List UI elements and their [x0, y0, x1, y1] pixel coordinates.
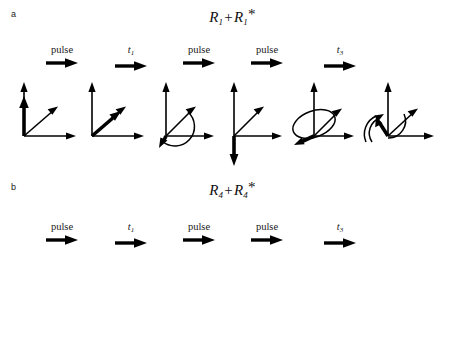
panel-a-frame-1 [12, 74, 86, 170]
panel-a-step-4-label: pulse [239, 44, 295, 56]
panel-b-step-5-label: t3 [312, 221, 368, 236]
panel-a-steps-row: pulse t1 pulse [0, 44, 465, 78]
nmr-vector-evolution-figure: a R1+R1* pulse t1 pulse [0, 0, 465, 346]
panel-a-frame-6 [358, 74, 432, 170]
z-axis-arrowhead [230, 82, 237, 92]
panel-a-step-4: pulse [239, 44, 295, 69]
panel-b-title-plus: + [223, 182, 234, 198]
right-arrow-icon [182, 234, 216, 246]
panel-a-title-r2: R [234, 9, 243, 25]
panel-a-step-2-sub: 1 [131, 49, 135, 57]
magnetization-arrowhead [19, 96, 29, 108]
panel-b-step-2: t1 [103, 221, 159, 249]
inverted-magnetization-diagram [218, 74, 292, 170]
z-axis-arrowhead [310, 82, 317, 92]
z-axis-arrowhead [20, 82, 27, 92]
x-axis-arrowhead [344, 132, 354, 139]
panel-a-step-1-label: pulse [34, 44, 90, 56]
refocused-magnetization-curved-arrows-diagram [358, 74, 444, 170]
panel-a-step-5-label: t3 [312, 44, 368, 59]
panel-b-step-3-label: pulse [171, 221, 227, 233]
panel-b-step-2-label: t1 [103, 221, 159, 236]
x-axis-arrowhead [424, 132, 434, 139]
panel-b-step-2-sub: 1 [131, 226, 135, 234]
panel-b-step-4-label: pulse [239, 221, 295, 233]
panel-a-frames-row [0, 74, 465, 170]
right-arrow-icon [114, 60, 148, 72]
tilted-magnetization-diagram [80, 74, 154, 170]
right-arrow-icon [182, 57, 216, 69]
right-arrow-icon [323, 237, 357, 249]
panel-a-step-5-sub: 3 [340, 49, 344, 57]
right-arrow-icon [250, 57, 284, 69]
z-axis-arrowhead [384, 82, 391, 92]
panel-a-step-5: t3 [312, 44, 368, 72]
y-axis-arrowhead [332, 109, 342, 117]
panel-b: b R4+R4* pulse t1 pulse [0, 173, 465, 346]
panel-a-step-2-label: t1 [103, 44, 159, 59]
panel-b-step-5-sub: 3 [340, 226, 344, 234]
panel-a-title-r1: R [209, 9, 218, 25]
magnetization-vector [92, 117, 114, 136]
panel-a: a R1+R1* pulse t1 pulse [0, 0, 465, 173]
y-axis [166, 110, 192, 136]
panel-a-frame-4 [218, 74, 292, 170]
panel-a-title-plus: + [223, 9, 234, 25]
right-arrow-icon [45, 234, 79, 246]
panel-b-step-4: pulse [239, 221, 295, 246]
panel-b-step-1-label: pulse [34, 221, 90, 233]
y-axis-arrowhead [254, 107, 264, 115]
y-axis [234, 110, 260, 136]
panel-b-step-1: pulse [34, 221, 90, 246]
y-axis-arrowhead [186, 107, 196, 115]
panel-a-step-3: pulse [171, 44, 227, 69]
right-arrow-icon [45, 57, 79, 69]
y-axis [24, 110, 54, 136]
right-arrow-icon [323, 60, 357, 72]
right-arrow-icon [250, 234, 284, 246]
right-arrow-icon [114, 237, 148, 249]
panel-a-title-star: * [248, 6, 256, 22]
x-axis-arrowhead [66, 132, 76, 139]
panel-a-title: R1+R1* [0, 6, 465, 27]
z-axis-arrowhead [88, 82, 95, 92]
panel-a-frame-3 [150, 74, 224, 170]
x-axis-arrowhead [204, 132, 214, 139]
panel-b-title: R4+R4* [0, 179, 465, 200]
precessing-magnetization-small-arc-diagram [150, 74, 224, 170]
precessing-magnetization-ellipse-diagram [288, 74, 362, 170]
panel-b-step-5: t3 [312, 221, 368, 249]
panel-b-step-3: pulse [171, 221, 227, 246]
panel-a-step-3-label: pulse [171, 44, 227, 56]
panel-a-frame-2 [80, 74, 154, 170]
z-axis-arrowhead [162, 82, 169, 92]
magnetization-arrowhead [230, 154, 239, 166]
panel-b-title-r1: R [209, 182, 218, 198]
x-axis-arrowhead [272, 132, 282, 139]
x-axis-arrowhead [134, 132, 144, 139]
panel-a-step-2: t1 [103, 44, 159, 72]
panel-b-title-r2: R [234, 182, 243, 198]
panel-b-title-star: * [248, 179, 256, 195]
panel-a-frame-5 [288, 74, 362, 170]
equilibrium-magnetization-diagram [12, 74, 86, 170]
panel-a-step-1: pulse [34, 44, 90, 69]
panel-b-steps-row: pulse t1 pulse [0, 221, 465, 255]
